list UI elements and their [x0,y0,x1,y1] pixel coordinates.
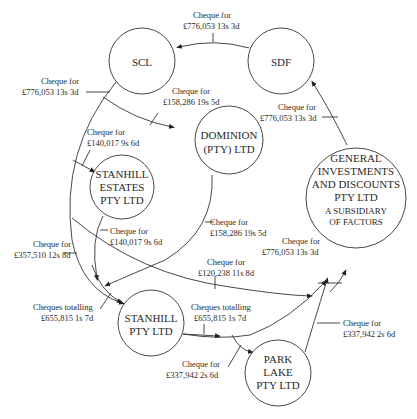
edge-label: £120,238 11s 8d [198,268,255,278]
edge-to-stanhill-estates [73,160,93,171]
label-to-general-120: Cheque for £120,238 11s 8d [198,257,255,278]
node-label: ESTATES [100,181,145,193]
node-sublabel: OF FACTORS [329,217,382,227]
node-label: PTY LTD [256,379,300,391]
label-park-lake-to-general: Cheque for £337,942 2s 6d [343,318,396,339]
edge-label: £140,017 9s 6d [87,138,140,148]
edge-label: Cheque for [110,226,148,236]
flow-diagram: SCL SDF DOMINION (PTY) LTD STANHILL ESTA… [0,0,417,419]
edge-label: £776,053 13s 3d [262,247,319,257]
node-label: SCL [132,56,152,68]
node-label: SDF [271,56,291,68]
edge-general-to-sdf [313,83,347,145]
leader [228,345,241,367]
node-label: PTY LTD [334,191,378,203]
edge-label: £158,286 19s 5d [210,228,267,238]
edge-label: Cheques totalling [191,302,251,312]
leader [82,150,90,166]
node-label: PTY LTD [129,325,173,337]
node-stanhill: STANHILL PTY LTD [118,290,184,356]
label-stanhill-estates-out: Cheque for £140,017 9s 6d [110,226,163,247]
edge-label: Cheque for [282,236,320,246]
edge-label: Cheque for [33,239,71,249]
label-sdf-to-scl: Cheque for £776,053 13s 3d [183,10,240,31]
edge-label: Cheque for [210,217,248,227]
edge-label: Cheque for [278,102,316,112]
label-stanhill-to-general: Cheques totalling £655,815 1s 7d [191,302,251,323]
edge-label: £357,510 12s 8d [14,250,71,260]
label-to-park-lake: Cheque for £337,942 2s 6d [166,359,220,380]
label-dominion-out: Cheque for £158,286 19s 5d [210,217,267,238]
node-stanhill-estates: STANHILL ESTATES PTY LTD [90,155,154,219]
node-park-lake: PARK LAKE PTY LTD [245,340,311,406]
edge-label: Cheque for [182,359,220,369]
node-label: AND DISCOUNTS [312,178,400,190]
label-general-to-sdf: Cheque for £776,053 13s 3d [260,102,317,123]
node-label: INVESTMENTS [318,165,394,177]
node-label: GENERAL [330,152,382,164]
node-label: PTY LTD [100,194,144,206]
edge-label: £655,815 1s 7d [41,313,94,323]
edge-label: £776,053 13s 3d [22,87,79,97]
edge-label: Cheque for [193,10,231,20]
edge-label: £776,053 13s 3d [260,113,317,123]
edge-scl-to-dominion [103,97,172,127]
edge-label: Cheque for [41,76,79,86]
node-label: STANHILL [125,312,178,324]
edge-label: £655,815 1s 7d [194,313,247,323]
edge-label: £158,286 19s 5d [163,97,220,107]
edge-label: Cheques totalling [33,302,93,312]
label-scl-to-dominion: Cheque for £158,286 19s 5d [163,86,220,107]
edge-sdf-to-scl [179,43,249,48]
edge-label: £337,942 2s 6d [343,329,396,339]
edge-label: Cheque for [207,257,245,267]
node-label: (PTY) LTD [203,143,254,156]
node-label: PARK [264,353,292,365]
node-dominion: DOMINION (PTY) LTD [195,106,263,174]
node-sublabel: A SUBSIDIARY [325,206,387,216]
node-label: LAKE [263,366,293,378]
edge-label: Cheque for [87,127,125,137]
node-label: DOMINION [201,129,258,141]
label-scl-down: Cheque for £776,053 13s 3d [22,76,79,97]
edge-to-general-776 [330,272,345,292]
edge-label: £337,942 2s 6d [166,370,219,380]
label-to-stanhill-estates: Cheque for £140,017 9s 6d [87,127,140,148]
node-general-investments: GENERAL INVESTMENTS AND DISCOUNTS PTY LT… [306,148,406,248]
label-left-357: Cheque for £357,510 12s 8d [14,239,71,260]
edge-label: £140,017 9s 6d [110,237,163,247]
label-to-general-776: Cheque for £776,053 13s 3d [262,236,320,257]
edge-stanhill-estates-out [95,216,103,278]
edge-label: Cheque for [343,318,381,328]
label-into-stanhill: Cheques totalling £655,815 1s 7d [33,302,94,323]
node-scl: SCL [109,28,175,94]
edge-label: Cheque for [172,86,210,96]
node-sdf: SDF [248,28,314,94]
node-label: STANHILL [96,168,149,180]
edge-to-park-lake [232,335,251,352]
edge-label: £776,053 13s 3d [183,21,240,31]
